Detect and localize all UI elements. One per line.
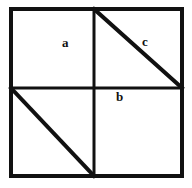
label-b: b — [116, 90, 123, 103]
figure-background — [0, 0, 192, 188]
geometry-figure: a c b — [0, 0, 192, 188]
label-c: c — [142, 35, 148, 48]
geometry-canvas — [0, 0, 192, 188]
label-a: a — [62, 36, 69, 49]
